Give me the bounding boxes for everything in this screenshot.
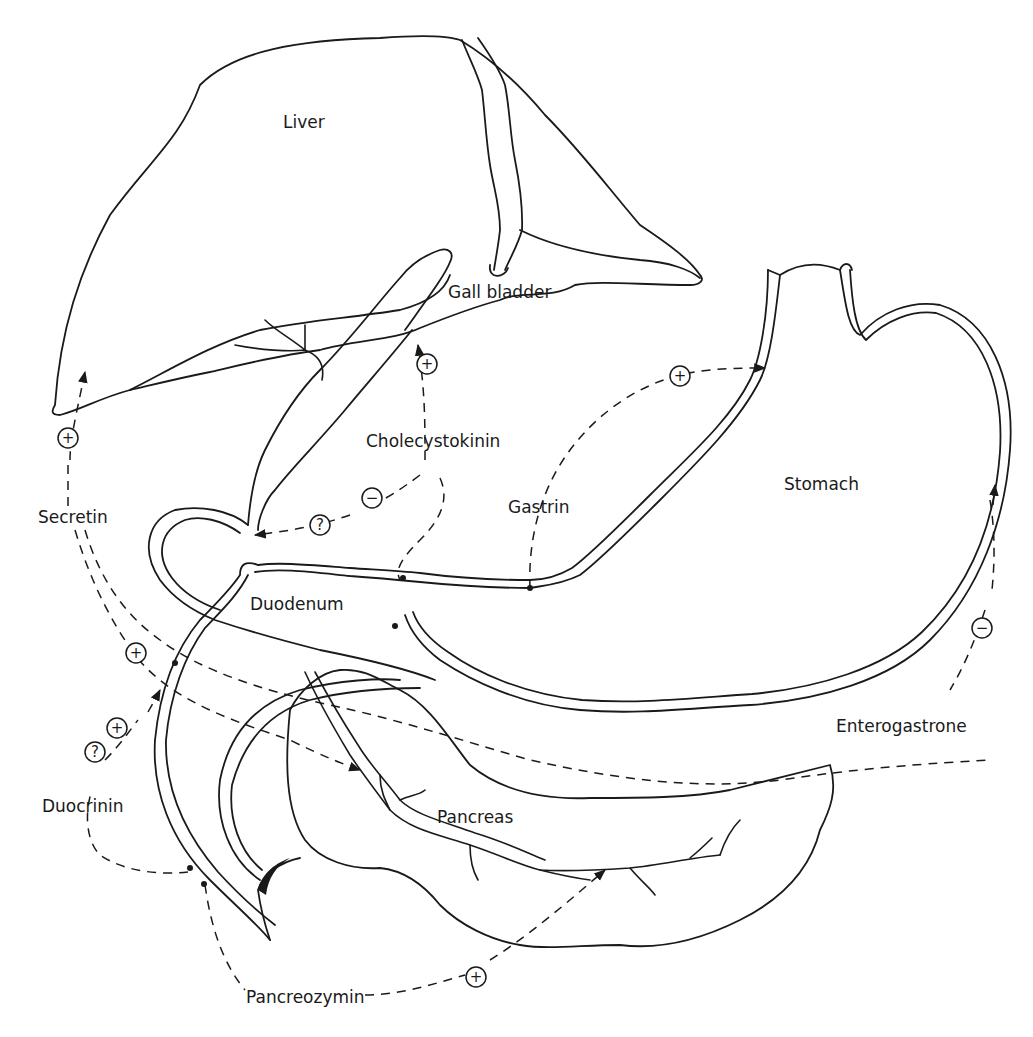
duocrinin-label: Duocrinin — [42, 796, 124, 816]
svg-text:+: + — [130, 644, 143, 662]
stomach-label: Stomach — [784, 474, 859, 494]
gastrin-label: Gastrin — [508, 497, 570, 517]
secretin-label: Secretin — [38, 507, 108, 527]
svg-text:−: − — [976, 619, 989, 637]
pancreas — [287, 670, 833, 947]
enterogastrone-label: Enterogastrone — [836, 716, 967, 736]
liver — [53, 36, 702, 415]
svg-text:+: + — [674, 367, 687, 385]
gastrin-plus-symbol: + — [670, 366, 690, 386]
gall-bladder — [235, 250, 452, 531]
svg-text:+: + — [111, 719, 124, 737]
svg-text:?: ? — [91, 743, 99, 761]
cholecystokinin-unknown-symbol: ? — [310, 515, 330, 535]
effect-symbols: + + + − ? + − + — [58, 354, 992, 987]
svg-text:+: + — [421, 355, 434, 373]
svg-text:+: + — [470, 968, 483, 986]
digestive-hormone-diagram: + + + − ? + − + — [0, 0, 1033, 1037]
gall-bladder-label: Gall bladder — [448, 282, 551, 302]
liver-label: Liver — [283, 112, 325, 132]
svg-text:?: ? — [316, 516, 324, 534]
cholecystokinin-minus-symbol: − — [362, 488, 382, 508]
enterogastrone-minus-symbol: − — [972, 618, 992, 638]
svg-text:−: − — [366, 489, 379, 507]
duocrinin-plus-symbol: + — [107, 718, 127, 738]
duocrinin-unknown-symbol: ? — [85, 742, 105, 762]
pancreas-label: Pancreas — [437, 807, 514, 827]
labels: Liver Gall bladder Stomach Duodenum Panc… — [38, 112, 967, 1007]
svg-text:+: + — [62, 429, 75, 447]
duodenum — [149, 508, 435, 940]
pancreozymin-plus-symbol: + — [466, 967, 486, 987]
secretin-pancreas-plus-symbol: + — [126, 643, 146, 663]
cholecystokinin-gallbladder-plus-symbol: + — [417, 354, 437, 374]
pancreozymin-label: Pancreozymin — [246, 987, 365, 1007]
cholecystokinin-label: Cholecystokinin — [366, 431, 500, 451]
stomach — [255, 264, 1011, 712]
hormone-pathways — [68, 345, 995, 995]
duodenum-label: Duodenum — [250, 594, 344, 614]
secretin-liver-plus-symbol: + — [58, 428, 78, 448]
